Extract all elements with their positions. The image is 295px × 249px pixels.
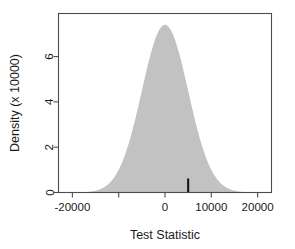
x-axis-tick-label: 20000: [242, 201, 274, 213]
y-axis-tick-label: 6: [44, 53, 56, 59]
x-axis-tick-label: -20000: [54, 201, 90, 213]
y-axis-title: Density (x 10000): [8, 54, 22, 152]
x-axis-tick-label: 10000: [195, 201, 227, 213]
y-axis-tick-label: 4: [44, 98, 56, 105]
x-axis-title: Test Statistic: [130, 228, 200, 242]
chart-canvas: -2000001000020000 0246 Test Statistic De…: [0, 0, 295, 249]
x-axis-tick-labels: -2000001000020000: [54, 201, 273, 213]
y-axis-tick-label: 0: [44, 189, 56, 195]
y-axis-tick-label: 2: [44, 144, 56, 150]
density-plot-figure: -2000001000020000 0246 Test Statistic De…: [0, 0, 295, 249]
x-axis-tick-label: 0: [162, 201, 168, 213]
